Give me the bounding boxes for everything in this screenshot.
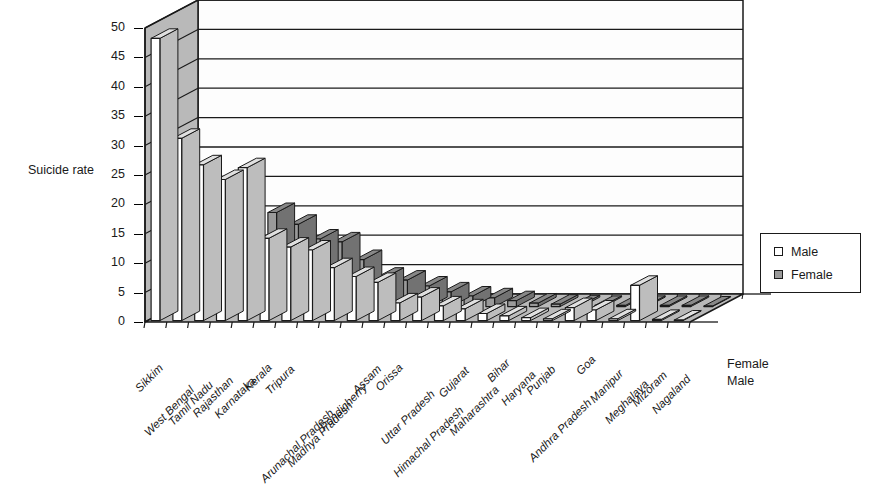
legend-label-female: Female	[791, 268, 833, 282]
x-axis-label-sikkim: Sikkim	[133, 362, 165, 394]
legend-item-male: Male	[774, 245, 860, 259]
z-axis-label-female: Female	[727, 357, 769, 371]
legend-swatch-female-icon	[774, 270, 783, 279]
x-axis-label-goa: Goa	[574, 353, 598, 377]
x-axis-category-labels: SikkimWest BengalTamil NaduRajasthanKarn…	[0, 0, 888, 492]
legend-item-female: Female	[774, 268, 860, 282]
chart-legend: Male Female	[760, 233, 861, 293]
z-axis-label-male: Male	[727, 374, 754, 388]
legend-swatch-male-icon	[774, 247, 783, 256]
legend-label-male: Male	[791, 245, 818, 259]
x-axis-label-gujarat: Gujarat	[436, 364, 471, 399]
chart-3d-bar: Suicide rate 50454035302520151050 Sikkim…	[0, 0, 888, 492]
x-axis-label-andhra-pradesh: Andhra Pradesh	[526, 397, 593, 464]
x-axis-label-bihar: Bihar	[484, 357, 511, 384]
